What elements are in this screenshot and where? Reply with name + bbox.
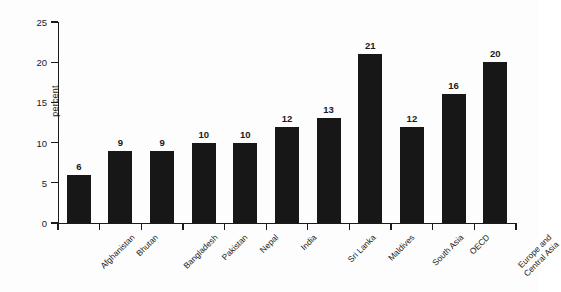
y-axis-tick-label: 5 bbox=[42, 177, 51, 188]
bar-value-label: 6 bbox=[76, 161, 81, 172]
x-axis-category-label: Maldives bbox=[387, 233, 417, 263]
bar[interactable] bbox=[108, 151, 132, 223]
bar[interactable] bbox=[483, 62, 507, 223]
x-axis-category-label-line: Bhutan bbox=[135, 233, 161, 259]
plot-area: 6991010121321121620 bbox=[58, 22, 516, 223]
y-axis-tick-label: 10 bbox=[36, 137, 51, 148]
bar-group[interactable]: 21 bbox=[358, 22, 382, 223]
bar[interactable] bbox=[358, 54, 382, 223]
x-axis-tick bbox=[266, 223, 267, 230]
bar-value-label: 10 bbox=[240, 129, 251, 140]
x-axis-category-label-line: Nepal bbox=[259, 233, 281, 255]
bar[interactable] bbox=[150, 151, 174, 223]
x-axis-category-label-line: Maldives bbox=[387, 233, 417, 263]
bar-group[interactable]: 9 bbox=[108, 22, 132, 223]
bar[interactable] bbox=[317, 118, 341, 223]
x-axis-tick bbox=[349, 223, 350, 230]
bar-value-label: 13 bbox=[323, 104, 334, 115]
bar-group[interactable]: 12 bbox=[275, 22, 299, 223]
x-axis-tick bbox=[474, 223, 475, 230]
x-axis-category-label: South Asia bbox=[431, 233, 466, 268]
x-axis-tick bbox=[432, 223, 433, 230]
x-axis-tick bbox=[182, 223, 183, 230]
bar-group[interactable]: 16 bbox=[442, 22, 466, 223]
x-axis-category-label-line: India bbox=[299, 233, 319, 253]
x-axis-category-label-line: Pakistan bbox=[220, 233, 250, 263]
x-axis-category-label: Sri Lanka bbox=[346, 233, 378, 265]
bar-group[interactable]: 10 bbox=[233, 22, 257, 223]
x-axis-tick bbox=[141, 223, 142, 230]
bar[interactable] bbox=[192, 143, 216, 223]
x-axis-tick bbox=[57, 223, 58, 230]
x-axis-category-label: Pakistan bbox=[220, 233, 250, 263]
x-axis-category-label-line: Bangladesh bbox=[182, 233, 220, 271]
bar-value-label: 21 bbox=[365, 40, 376, 51]
bar-group[interactable]: 20 bbox=[483, 22, 507, 223]
bar[interactable] bbox=[233, 143, 257, 223]
y-axis-tick: 20 bbox=[51, 62, 58, 63]
bar-group[interactable]: 13 bbox=[317, 22, 341, 223]
bar-value-label: 12 bbox=[282, 113, 293, 124]
bar[interactable] bbox=[400, 127, 424, 223]
x-axis-tick bbox=[99, 223, 100, 230]
x-axis-tick bbox=[515, 223, 516, 230]
y-axis-tick-label: 25 bbox=[36, 16, 51, 27]
bar-value-label: 10 bbox=[198, 129, 209, 140]
x-axis-category-label-line: Afghanistan bbox=[99, 233, 137, 271]
bar-value-label: 12 bbox=[407, 113, 418, 124]
x-axis-tick bbox=[224, 223, 225, 230]
bar-value-label: 9 bbox=[159, 137, 164, 148]
bar[interactable] bbox=[67, 175, 91, 223]
bar-group[interactable]: 12 bbox=[400, 22, 424, 223]
y-axis-tick: 5 bbox=[51, 182, 58, 183]
x-axis-category-label: OECD bbox=[468, 233, 492, 257]
y-axis-tick-label: 15 bbox=[36, 97, 51, 108]
x-axis-category-label: Europe andCentral Asia bbox=[515, 233, 561, 279]
x-axis-category-label-line: South Asia bbox=[431, 233, 466, 268]
y-axis-tick: 10 bbox=[51, 142, 58, 143]
y-axis-tick: 25 bbox=[51, 21, 58, 22]
x-axis-category-label-line: OECD bbox=[468, 233, 492, 257]
x-axis-category-label: Bhutan bbox=[135, 233, 161, 259]
bar-group[interactable]: 9 bbox=[150, 22, 174, 223]
x-axis-category-label: Bangladesh bbox=[182, 233, 220, 271]
y-axis-tick-label: 0 bbox=[42, 217, 51, 228]
x-axis-category-label: India bbox=[299, 233, 319, 253]
x-axis-tick bbox=[307, 223, 308, 230]
bar-group[interactable]: 6 bbox=[67, 22, 91, 223]
y-axis-tick-label: 20 bbox=[36, 57, 51, 68]
bar[interactable] bbox=[442, 94, 466, 223]
x-axis-category-label-line: Sri Lanka bbox=[346, 233, 378, 265]
x-axis-category-label: Afghanistan bbox=[99, 233, 137, 271]
bar-value-label: 16 bbox=[448, 80, 459, 91]
bar-value-label: 9 bbox=[118, 137, 123, 148]
bar[interactable] bbox=[275, 127, 299, 223]
bar-value-label: 20 bbox=[490, 48, 501, 59]
y-axis-tick: 15 bbox=[51, 102, 58, 103]
bar-group[interactable]: 10 bbox=[192, 22, 216, 223]
x-axis-tick bbox=[390, 223, 391, 230]
x-axis-category-label: Nepal bbox=[259, 233, 281, 255]
